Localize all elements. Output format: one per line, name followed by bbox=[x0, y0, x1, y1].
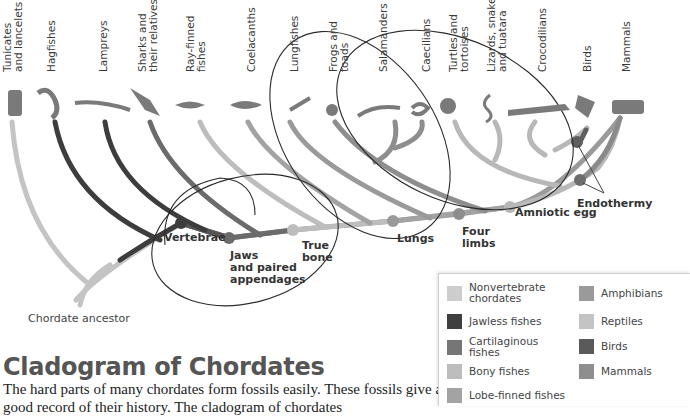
legend-item-lobe-finned: Lobe-finned fishes bbox=[447, 388, 565, 403]
taxon-label-cell: Birds bbox=[581, 0, 611, 72]
taxon-label: Tunicates and lancelets bbox=[2, 2, 24, 72]
taxon-label: Mammals bbox=[621, 21, 632, 72]
trait-dots bbox=[175, 136, 586, 244]
hagfish-icon bbox=[38, 90, 57, 118]
trait-label: Four limbs bbox=[462, 226, 495, 250]
legend-item-mammals: Mammals bbox=[579, 364, 652, 379]
body-text: The hard parts of many chordates form fo… bbox=[3, 380, 443, 416]
turtle-icon bbox=[440, 98, 456, 114]
lungfish-icon bbox=[290, 98, 310, 110]
taxon-label: Ray-finned fishes bbox=[185, 16, 207, 72]
taxon-label: Sharks and their relatives bbox=[137, 0, 159, 72]
lizard-branch bbox=[495, 122, 500, 160]
taxon-label: Caecilians bbox=[421, 19, 432, 72]
taxon-label-cell: Caecilians bbox=[420, 0, 450, 72]
taxon-label: Lampreys bbox=[98, 21, 109, 72]
taxon-label: Lizards, snakes, and tuatara bbox=[486, 0, 508, 72]
coelacanth-icon bbox=[230, 101, 262, 109]
taxon-label-cell: Frogs and toads bbox=[328, 0, 358, 72]
legend-item-jawless: Jawless fishes bbox=[447, 314, 541, 329]
taxon-label-cell: Mammals bbox=[620, 0, 650, 72]
bird-icon bbox=[575, 95, 595, 118]
cow-icon bbox=[612, 100, 644, 114]
taxon-label: Turtles and tortoises bbox=[448, 14, 470, 72]
legend-item-nonvertebrate: Nonvertebrate chordates bbox=[447, 282, 546, 304]
legend-item-cartilaginous: Cartilaginous fishes bbox=[447, 336, 538, 358]
trait-label: True bone bbox=[302, 240, 333, 264]
shark-icon bbox=[130, 88, 160, 116]
taxon-label-cell: Salamanders bbox=[377, 0, 407, 72]
taxon-label: Coelacanths bbox=[246, 7, 257, 72]
caecilian-icon bbox=[412, 104, 428, 114]
root-label: Chordate ancestor bbox=[28, 312, 130, 325]
crocodile-icon bbox=[508, 104, 570, 116]
lamprey-icon bbox=[75, 102, 130, 110]
taxon-label-cell: Hagfishes bbox=[45, 0, 75, 72]
shark-branch bbox=[150, 122, 260, 235]
taxon-label-cell: Sharks and their relatives bbox=[137, 0, 167, 72]
trait-label: Endothermy bbox=[577, 198, 652, 210]
taxon-label-cell: Coelacanths bbox=[245, 0, 275, 72]
taxon-label: Lungfishes bbox=[289, 16, 300, 72]
taxon-label: Frogs and toads bbox=[328, 21, 350, 72]
legend-item-bony: Bony fishes bbox=[447, 364, 530, 379]
ray-finned-fish-icon bbox=[175, 102, 205, 109]
salamander-branch bbox=[375, 122, 396, 162]
taxon-label-cell: Tunicates and lancelets bbox=[2, 0, 32, 72]
legend-item-amphibians: Amphibians bbox=[579, 286, 663, 301]
taxon-label-cell: Lungfishes bbox=[288, 0, 318, 72]
snake-icon bbox=[484, 95, 491, 122]
taxon-label: Crocodilians bbox=[537, 8, 548, 72]
lungfish-branch bbox=[290, 122, 430, 218]
salamander-icon bbox=[358, 107, 400, 116]
legend-item-reptiles: Reptiles bbox=[579, 314, 643, 329]
tunicate-branch bbox=[12, 122, 90, 285]
legend-swatch bbox=[447, 286, 462, 301]
trait-label: Jaws and paired appendages bbox=[230, 250, 306, 286]
tunicate-icon bbox=[8, 90, 22, 116]
caecilian-branch bbox=[395, 122, 422, 148]
taxon-label-cell: Turtles and tortoises bbox=[448, 0, 478, 72]
trait-label: Lungs bbox=[397, 233, 434, 245]
taxon-label: Salamanders bbox=[378, 3, 389, 72]
legend-item-birds: Birds bbox=[579, 339, 627, 354]
taxon-label: Hagfishes bbox=[46, 20, 57, 72]
taxon-label: Birds bbox=[582, 46, 593, 72]
taxon-label-cell: Lampreys bbox=[97, 0, 127, 72]
taxon-label-cell: Ray-finned fishes bbox=[185, 0, 215, 72]
page-title: Cladogram of Chordates bbox=[3, 353, 324, 381]
trait-label: Vertebrae bbox=[164, 232, 226, 244]
croc-branch bbox=[529, 122, 545, 155]
taxon-label-cell: Crocodilians bbox=[536, 0, 566, 72]
legend: Nonvertebrate chordates Jawless fishes C… bbox=[438, 273, 690, 406]
taxon-label-cell: Lizards, snakes, and tuatara bbox=[486, 0, 516, 72]
frog-icon bbox=[326, 104, 338, 116]
